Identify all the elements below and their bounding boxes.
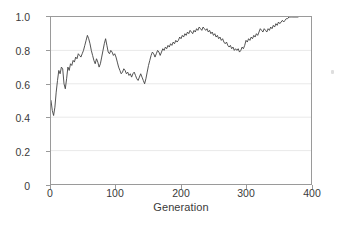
y-tick-label-0_8: 0.8 xyxy=(0,46,30,56)
data-series-line xyxy=(51,17,311,184)
x-tick-label-400: 400 xyxy=(292,188,332,199)
y-tick-label-1_0: 1.0 xyxy=(0,12,30,22)
y-tick-label-0_6: 0.6 xyxy=(0,80,30,90)
scan-artifact-speck xyxy=(331,70,334,74)
x-tick-label-0: 0 xyxy=(30,188,70,199)
x-tick-label-300: 300 xyxy=(226,188,266,199)
plot-area xyxy=(50,16,312,185)
x-axis-title: Generation xyxy=(50,201,312,214)
y-tick-label-0_4: 0.4 xyxy=(0,113,30,123)
y-tick-label-0_2: 0.2 xyxy=(0,147,30,157)
allele-frequency-line xyxy=(51,17,298,116)
y-tick-label-0: 0 xyxy=(0,181,30,191)
x-tick-label-100: 100 xyxy=(95,188,135,199)
allele-frequency-chart: Frequency of A1 allele 0 0.2 0.4 0.6 0.8… xyxy=(0,0,346,227)
x-tick-label-200: 200 xyxy=(161,188,201,199)
